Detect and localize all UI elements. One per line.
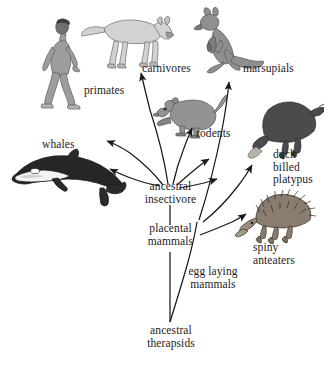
label-rodents: rodents bbox=[196, 127, 231, 140]
branch-to-primates bbox=[107, 141, 163, 185]
label-marsupials: marsupials bbox=[243, 62, 294, 75]
label-ancestral-insectivore: ancestral insectivore bbox=[133, 180, 208, 205]
label-placental-mammals: placental mammals bbox=[133, 222, 208, 247]
label-whales: whales bbox=[42, 138, 75, 151]
label-ancestral-therapsids: ancestral therapsids bbox=[131, 324, 211, 349]
branch-to-platypus bbox=[203, 165, 252, 222]
evolution-diagram: primates carnivores marsupials rodents w… bbox=[0, 0, 324, 370]
label-duck-billed-platypus: duck billed platypus bbox=[273, 148, 313, 186]
branch-to-rodents bbox=[173, 128, 192, 184]
label-primates: primates bbox=[84, 84, 124, 97]
label-carnivores: carnivores bbox=[142, 62, 191, 75]
label-egg-laying-mammals: egg laying mammals bbox=[173, 265, 253, 290]
branch-to-carnivores bbox=[141, 73, 168, 184]
label-spiny-anteaters: spiny anteaters bbox=[253, 241, 295, 266]
